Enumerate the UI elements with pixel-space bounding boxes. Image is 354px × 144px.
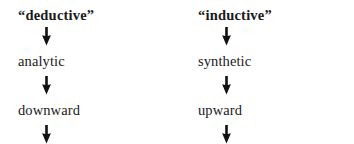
arrow-row-right-2 — [198, 75, 354, 96]
comparison-diagram: “deductive” analytic downward — [0, 0, 354, 144]
arrow-row-left-1 — [18, 26, 180, 47]
inductive-step-1: synthetic — [198, 47, 354, 75]
arrow-row-left-3 — [18, 124, 180, 144]
inductive-column-header: “inductive” — [198, 4, 354, 26]
arrow-row-right-1 — [198, 26, 354, 47]
deductive-column: “deductive” analytic downward — [0, 0, 180, 144]
down-arrow-icon — [40, 76, 53, 95]
down-arrow-icon — [40, 125, 53, 144]
down-arrow-icon — [40, 27, 53, 46]
arrow-row-left-2 — [18, 75, 180, 96]
deductive-step-2: downward — [18, 96, 180, 124]
down-arrow-icon — [220, 27, 233, 46]
inductive-column: “inductive” synthetic upward — [180, 0, 354, 144]
deductive-step-1: analytic — [18, 47, 180, 75]
down-arrow-icon — [220, 125, 233, 144]
arrow-row-right-3 — [198, 124, 354, 144]
down-arrow-icon — [220, 76, 233, 95]
deductive-column-header: “deductive” — [18, 4, 180, 26]
inductive-step-2: upward — [198, 96, 354, 124]
